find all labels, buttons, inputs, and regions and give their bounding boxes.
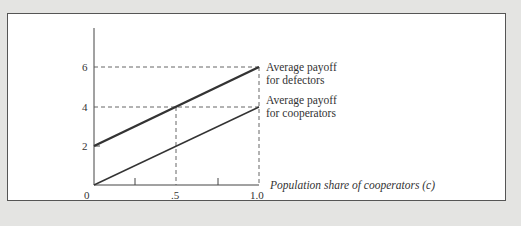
defectors-label-line2: for defectors [266, 74, 325, 86]
y-tick-label-4: 4 [82, 101, 88, 113]
x-tick-label-1: 1.0 [250, 189, 264, 201]
x-axis-title: Population share of cooperators (c) [269, 179, 435, 192]
x-tick-label-05: .5 [171, 189, 180, 201]
y-tick-label-6: 6 [82, 61, 88, 73]
x-tick-label-0: 0 [84, 189, 90, 201]
cooperators-label-line2: for cooperators [266, 107, 336, 120]
cooperators-payoff-line [94, 107, 259, 185]
payoff-chart: 6 4 2 0 .5 1.0 Average payoff for defect… [0, 0, 521, 226]
defectors-payoff-line [94, 67, 259, 146]
y-tick-label-2: 2 [82, 140, 88, 152]
cooperators-label-line1: Average payoff [266, 94, 337, 107]
defectors-label-line1: Average payoff [266, 61, 337, 74]
